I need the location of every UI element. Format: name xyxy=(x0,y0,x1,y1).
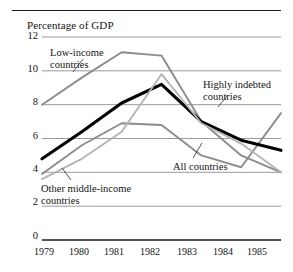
annotation-other-middle-income-line2: countries xyxy=(41,195,131,207)
annotation-all-countries-line1: All countries xyxy=(173,161,228,173)
y-axis-title: Percentage of GDP xyxy=(27,19,114,31)
annotation-highly-indebted-line1: Highly indebted xyxy=(203,79,271,91)
annotation-low-income: Low-income countries xyxy=(50,47,104,70)
y-tick-6: 6 xyxy=(20,131,38,142)
series-line-low-income-countries xyxy=(42,52,281,172)
annotation-other-middle-income: Other middle-income countries xyxy=(41,183,131,206)
annotation-highly-indebted: Highly indebted countries xyxy=(203,79,271,102)
annotation-highly-indebted-line2: countries xyxy=(203,91,271,103)
annotation-low-income-line2: countries xyxy=(50,59,104,71)
x-tick-1980: 1980 xyxy=(62,247,96,257)
y-tick-0: 0 xyxy=(20,231,38,242)
top-rule xyxy=(12,10,281,11)
y-tick-12: 12 xyxy=(20,31,38,42)
y-tick-8: 8 xyxy=(20,97,38,108)
x-tick-1981: 1981 xyxy=(97,247,131,257)
x-tick-1982: 1982 xyxy=(133,247,167,257)
annotation-all-countries: All countries xyxy=(173,161,228,173)
annotation-low-income-line1: Low-income xyxy=(50,47,104,59)
x-tick-1984: 1984 xyxy=(206,247,240,257)
x-tick-1979: 1979 xyxy=(27,247,61,257)
figure: Percentage of GDP 12 10 8 6 4 2 0 1979 1… xyxy=(0,0,293,272)
y-tick-10: 10 xyxy=(20,64,38,75)
x-tick-1983: 1983 xyxy=(170,247,204,257)
y-tick-2: 2 xyxy=(20,197,38,208)
annotation-other-middle-income-line1: Other middle-income xyxy=(41,183,131,195)
x-tick-1985: 1985 xyxy=(240,247,274,257)
series-line-highly-indebted-countries xyxy=(42,113,281,174)
y-tick-4: 4 xyxy=(20,164,38,175)
